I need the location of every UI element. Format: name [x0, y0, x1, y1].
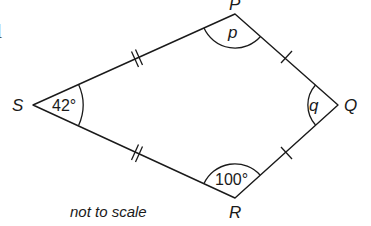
- vertex-label-p: P: [229, 0, 241, 14]
- kite-diagram: l S P Q R 42° p q 100° not to scale: [0, 0, 371, 226]
- kite-outline: [33, 14, 338, 198]
- angle-label-s: 42°: [52, 97, 76, 114]
- angle-label-p: p: [227, 23, 237, 42]
- vertex-label-s: S: [12, 96, 24, 115]
- angle-label-r: 100°: [215, 171, 248, 188]
- stray-glyph: l: [0, 18, 2, 43]
- angle-arc-s: [79, 85, 83, 126]
- vertex-label-r: R: [229, 203, 241, 222]
- angle-label-q: q: [309, 96, 319, 115]
- not-to-scale-note: not to scale: [70, 203, 147, 220]
- vertex-label-q: Q: [344, 96, 357, 115]
